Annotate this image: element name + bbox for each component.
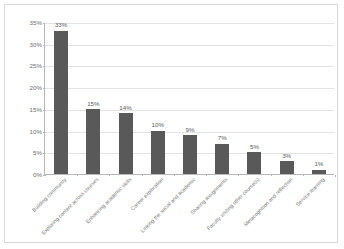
x-axis-category-label: Linking the social and academic (140, 177, 197, 234)
bar-value-label: 10% (152, 122, 164, 128)
bar[interactable] (280, 161, 294, 174)
bar[interactable] (247, 152, 261, 174)
bar-slot: 1% (303, 23, 335, 174)
y-axis-tick-label: 25% (30, 63, 42, 69)
bar-slot: 7% (206, 23, 238, 174)
bar-value-label: 3% (282, 153, 291, 159)
bar-series: 33%15%14%10%9%7%5%3%1% (45, 23, 334, 174)
y-axis-tick-label: 10% (30, 128, 42, 134)
bar-slot: 9% (174, 23, 206, 174)
bar[interactable] (151, 131, 165, 174)
bar-value-label: 14% (119, 105, 131, 111)
bar-value-label: 9% (186, 127, 195, 133)
x-axis-category-label: Career exploration (130, 177, 165, 212)
bar-slot: 15% (77, 23, 109, 174)
bar-slot: 10% (142, 23, 174, 174)
y-axis-tick-label: 30% (30, 42, 42, 48)
y-axis-tick-label: 20% (30, 85, 42, 91)
bar-slot: 33% (45, 23, 77, 174)
bar-value-label: 7% (218, 135, 227, 141)
x-axis-category-label: Exploring content across courses (41, 177, 100, 236)
y-axis-tick-label: 15% (30, 107, 42, 113)
chart-area: 0%5%10%15%20%25%30%35% 33%15%14%10%9%7%5… (13, 13, 339, 244)
bar-value-label: 1% (314, 161, 323, 167)
plot-area: 0%5%10%15%20%25%30%35% 33%15%14%10%9%7%5… (44, 23, 334, 175)
bar-value-label: 33% (55, 22, 67, 28)
x-axis-category-label: Service learning (295, 177, 326, 208)
bar-value-label: 5% (250, 144, 259, 150)
y-axis-tick-label: 0% (33, 172, 42, 178)
bar-slot: 3% (271, 23, 303, 174)
bar[interactable] (86, 109, 100, 174)
chart-frame: 0%5%10%15%20%25%30%35% 33%15%14%10%9%7%5… (4, 4, 338, 243)
bar-slot: 14% (109, 23, 141, 174)
y-axis-tick-label: 5% (33, 150, 42, 156)
x-axis-category-labels: Building communityExploring content acro… (44, 175, 334, 245)
x-axis-tick-mark (335, 175, 336, 177)
bar[interactable] (215, 144, 229, 174)
bar-value-label: 15% (87, 101, 99, 107)
bar[interactable] (312, 170, 326, 174)
y-axis-tick-label: 35% (30, 20, 42, 26)
bar[interactable] (54, 31, 68, 174)
bar[interactable] (183, 135, 197, 174)
bar-slot: 5% (238, 23, 270, 174)
bar[interactable] (119, 113, 133, 174)
